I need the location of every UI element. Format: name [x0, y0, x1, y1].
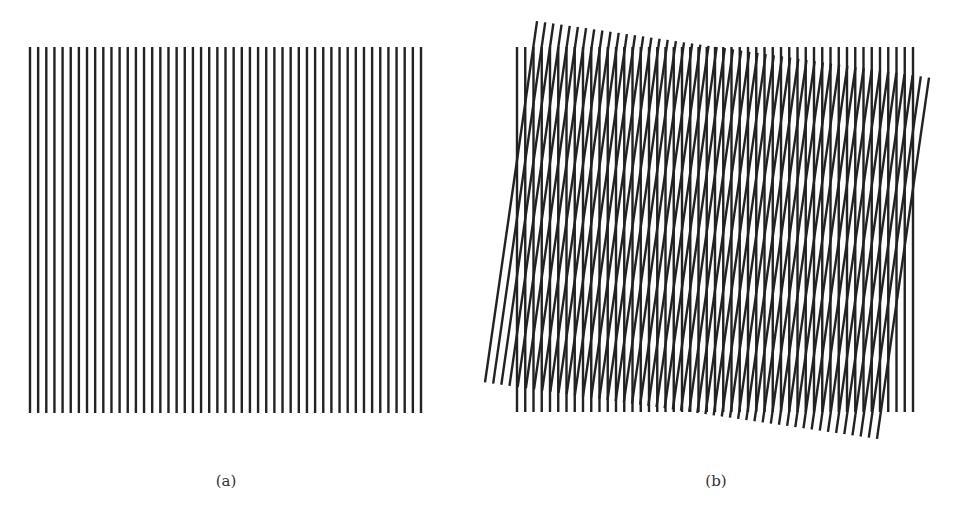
caption-a: (a)	[216, 472, 237, 490]
panel-a-grating	[30, 47, 421, 413]
caption-b: (b)	[705, 472, 726, 490]
grating-figure	[0, 0, 954, 521]
figure: (a) (b)	[0, 0, 954, 521]
